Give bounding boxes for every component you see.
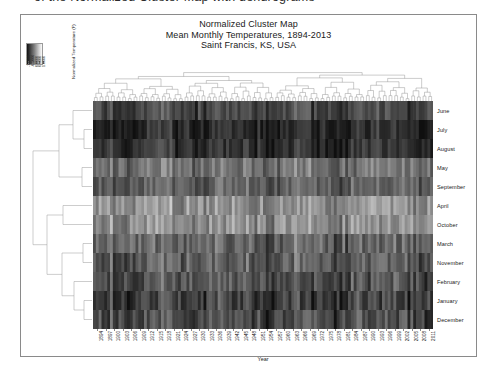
x-tick-label: 1996 <box>388 331 393 341</box>
x-tick-label: 1966 <box>303 331 308 341</box>
x-tick-label: 1951 <box>261 331 266 341</box>
figure-title-block: Normalized Cluster Map Mean Monthly Temp… <box>21 19 476 51</box>
row-label-september: September <box>437 184 465 190</box>
x-tick-label: 1960 <box>286 331 291 341</box>
x-tick <box>225 329 226 331</box>
column-dendrogram <box>93 61 433 101</box>
x-tick-label: 2011 <box>431 331 436 341</box>
x-tick-label: 1918 <box>167 331 172 341</box>
x-tick <box>327 329 328 331</box>
colorbar-axis-title: Normalized Temperature (F) <box>71 24 76 79</box>
x-tick-label: 1987 <box>363 331 368 341</box>
x-tick-label: 1942 <box>235 331 240 341</box>
document-text-above-figure: of the Normalized Cluster Map with dendr… <box>0 0 496 10</box>
x-tick <box>157 329 158 331</box>
x-tick-label: 1984 <box>354 331 359 341</box>
x-tick-label: 1924 <box>184 331 189 341</box>
row-label-december: December <box>437 317 464 323</box>
x-tick-label: 1963 <box>295 331 300 341</box>
x-tick-label: 1981 <box>346 331 351 341</box>
x-tick-label: 1948 <box>252 331 257 341</box>
x-tick-label: 1900 <box>116 331 121 341</box>
x-tick-label: 1897 <box>108 331 113 341</box>
row-label-january: January <box>437 298 458 304</box>
x-tick-label: 1927 <box>193 331 198 341</box>
x-tick-label: 1993 <box>380 331 385 341</box>
x-tick-label: 1990 <box>371 331 376 341</box>
x-tick-label: 1954 <box>269 331 274 341</box>
x-tick <box>378 329 379 331</box>
x-tick-label: 1939 <box>227 331 232 341</box>
x-tick <box>123 329 124 331</box>
x-tick-label: 1969 <box>312 331 317 341</box>
row-label-august: August <box>437 146 455 152</box>
row-label-march: March <box>437 241 453 247</box>
x-tick <box>242 329 243 331</box>
x-tick <box>429 329 430 331</box>
x-tick <box>310 329 311 331</box>
x-tick-label: 1957 <box>278 331 283 341</box>
row-label-june: June <box>437 108 450 114</box>
figure-title-line-3: Saint Francis, KS, USA <box>21 40 476 51</box>
x-tick-label: 1978 <box>337 331 342 341</box>
colorbar-tick-label: 1.0000 <box>42 56 46 67</box>
x-tick <box>361 329 362 331</box>
x-tick-label: 1933 <box>210 331 215 341</box>
x-tick-label: 1930 <box>201 331 206 341</box>
x-axis-title: Year <box>93 356 433 362</box>
colorbar-tick-labels: -1.0000-0.50000.00000.50001.0000 <box>41 67 65 68</box>
row-label-october: October <box>437 222 458 228</box>
row-label-november: November <box>437 260 464 266</box>
row-dendrogram <box>29 101 93 329</box>
x-tick <box>293 329 294 331</box>
row-label-may: May <box>437 165 448 171</box>
x-tick <box>191 329 192 331</box>
x-tick-label: 1906 <box>133 331 138 341</box>
x-tick-label: 1915 <box>159 331 164 341</box>
x-tick <box>208 329 209 331</box>
x-tick-label: 1936 <box>218 331 223 341</box>
x-tick <box>412 329 413 331</box>
x-tick-label: 1903 <box>125 331 130 341</box>
x-tick-label: 1912 <box>150 331 155 341</box>
row-label-february: February <box>437 279 460 285</box>
x-tick-label: 1999 <box>397 331 402 341</box>
x-tick <box>259 329 260 331</box>
figure-title-line-2: Mean Monthly Temperatures, 1894-2013 <box>21 30 476 41</box>
x-tick <box>174 329 175 331</box>
x-tick-label: 1909 <box>142 331 147 341</box>
x-tick <box>276 329 277 331</box>
x-tick-label: 1894 <box>99 331 104 341</box>
x-tick <box>395 329 396 331</box>
x-tick <box>140 329 141 331</box>
colorbar-legend: -1.0000-0.50000.00000.50001.0000 Normali… <box>26 21 88 83</box>
document-text-line: of the Normalized Cluster Map with dendr… <box>34 0 315 4</box>
x-tick-label: 1945 <box>244 331 249 341</box>
x-tick-label: 1921 <box>176 331 181 341</box>
heatmap <box>93 101 433 329</box>
x-tick-label: 2005 <box>414 331 419 341</box>
x-tick <box>106 329 107 331</box>
x-tick-label: 2008 <box>422 331 427 341</box>
column-labels-years: 1894189719001903190619091912191519181921… <box>93 331 433 357</box>
figure-title-line-1: Normalized Cluster Map <box>21 19 476 30</box>
x-tick-label: 1972 <box>320 331 325 341</box>
row-label-april: April <box>437 203 449 209</box>
row-label-july: July <box>437 127 447 133</box>
x-tick <box>344 329 345 331</box>
row-labels-months: JuneJulyAugustMaySeptemberAprilOctoberMa… <box>435 101 495 329</box>
figure-panel: Normalized Cluster Map Mean Monthly Temp… <box>20 14 477 357</box>
x-tick-label: 1975 <box>329 331 334 341</box>
x-tick-label: 2002 <box>405 331 410 341</box>
